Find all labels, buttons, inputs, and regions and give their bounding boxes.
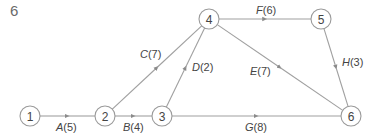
edge-label-D: D(2) <box>192 61 213 73</box>
node-label: 3 <box>159 110 166 124</box>
node-label: 6 <box>348 110 355 124</box>
edge-label-E: E(7) <box>250 65 271 77</box>
edge-label-G: G(8) <box>245 121 267 133</box>
edge-label-H: H(3) <box>342 56 363 68</box>
node-6: 6 <box>341 106 361 126</box>
node-label: 5 <box>318 13 325 27</box>
node-2: 2 <box>95 106 115 126</box>
nodes-layer: 123456 <box>20 9 361 126</box>
edge-label-F: F(6) <box>256 4 276 16</box>
edge-label-A: A(5) <box>55 121 77 133</box>
edge-label-B: B(4) <box>123 121 144 133</box>
edge-E <box>217 25 280 68</box>
activity-network-diagram: 123456 A(5)B(4)C(7)D(2)E(7)F(6)G(8)H(3) <box>0 0 380 140</box>
node-label: 2 <box>102 110 109 124</box>
edge-E-tail <box>280 68 343 111</box>
node-label: 1 <box>27 110 34 124</box>
edge-C <box>112 68 157 110</box>
node-3: 3 <box>152 106 172 126</box>
edge-D <box>166 68 185 108</box>
node-5: 5 <box>311 9 331 29</box>
node-label: 4 <box>206 13 213 27</box>
node-1: 1 <box>20 106 40 126</box>
edge-label-C: C(7) <box>140 48 161 60</box>
node-4: 4 <box>199 9 219 29</box>
edge-H-tail <box>336 68 348 107</box>
edge-H <box>324 29 336 68</box>
